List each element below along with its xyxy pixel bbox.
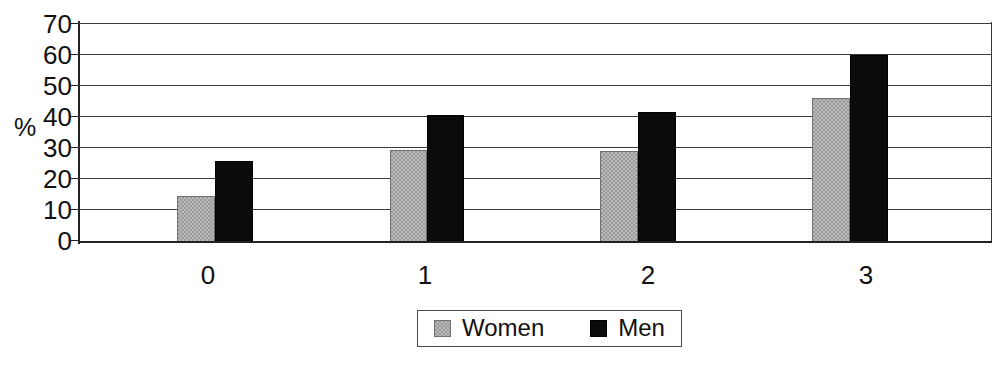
x-tick-label-3: 3 bbox=[859, 262, 873, 288]
bar-men-3 bbox=[850, 55, 888, 243]
legend-item-men: Men bbox=[590, 316, 665, 340]
x-tick-label-2: 2 bbox=[641, 262, 655, 288]
x-tick-label-0: 0 bbox=[201, 262, 215, 288]
y-axis-ticks: 70 60 50 40 30 20 10 0 bbox=[0, 0, 72, 369]
x-tick-label-1: 1 bbox=[418, 262, 432, 288]
legend-label-women: Women bbox=[462, 316, 544, 340]
y-tick-mark-10 bbox=[69, 209, 78, 210]
bar-women-1 bbox=[390, 150, 427, 243]
legend-label-men: Men bbox=[618, 316, 665, 340]
y-tick-mark-50 bbox=[69, 85, 78, 86]
y-tick-mark-70 bbox=[69, 23, 78, 24]
bar-women-0 bbox=[177, 196, 215, 243]
gridline-70 bbox=[78, 23, 992, 24]
y-tick-label-10: 10 bbox=[10, 197, 72, 223]
y-tick-label-70: 70 bbox=[10, 11, 72, 37]
grey-square-swatch-icon bbox=[434, 320, 451, 337]
y-tick-mark-0 bbox=[69, 240, 78, 241]
bar-men-0 bbox=[215, 161, 253, 243]
legend-item-women: Women bbox=[434, 316, 544, 340]
bar-women-2 bbox=[600, 151, 638, 243]
y-tick-label-30: 30 bbox=[10, 135, 72, 161]
chart-legend: Women Men bbox=[417, 310, 682, 347]
bar-women-3 bbox=[812, 98, 850, 243]
y-tick-mark-30 bbox=[69, 147, 78, 148]
y-tick-mark-20 bbox=[69, 178, 78, 179]
black-square-swatch-icon bbox=[590, 320, 607, 337]
y-tick-mark-60 bbox=[69, 54, 78, 55]
y-tick-label-50: 50 bbox=[10, 73, 72, 99]
y-tick-label-60: 60 bbox=[10, 42, 72, 68]
y-tick-label-20: 20 bbox=[10, 166, 72, 192]
plot-area bbox=[78, 22, 992, 243]
y-tick-mark-40 bbox=[69, 116, 78, 117]
bar-men-2 bbox=[638, 112, 676, 243]
bar-chart: % 70 60 50 40 30 20 10 0 bbox=[0, 0, 1002, 369]
y-tick-label-40: 40 bbox=[10, 104, 72, 130]
x-axis-line bbox=[78, 241, 992, 243]
bar-men-1 bbox=[427, 115, 464, 243]
y-tick-label-0: 0 bbox=[10, 228, 72, 254]
